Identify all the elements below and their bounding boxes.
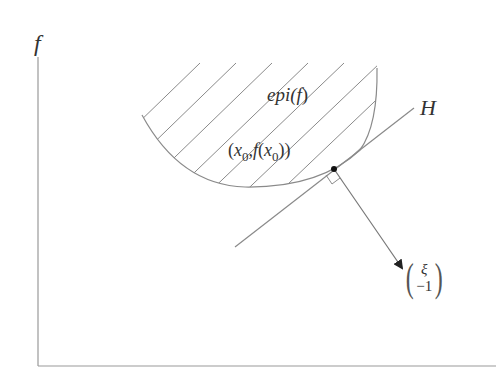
y-axis-label: f <box>34 30 41 57</box>
epigraph-label: epi(f) <box>267 84 308 106</box>
vector-top: ξ <box>421 261 427 278</box>
point-label: (x0,f(x0)) <box>228 140 291 165</box>
right-paren: ) <box>435 258 443 298</box>
function-graph-curve <box>142 68 377 187</box>
epigraph-diagram <box>0 0 496 374</box>
normal-vector-arrow <box>334 169 402 268</box>
right-angle-marker <box>326 175 340 184</box>
vector-bottom: −1 <box>416 278 432 295</box>
hyperplane-label: H <box>420 95 436 121</box>
hyperplane-line <box>235 108 414 247</box>
tangent-point <box>331 166 337 172</box>
left-paren: ( <box>406 258 414 298</box>
normal-vector-label: ( ξ −1 ) <box>403 258 446 298</box>
